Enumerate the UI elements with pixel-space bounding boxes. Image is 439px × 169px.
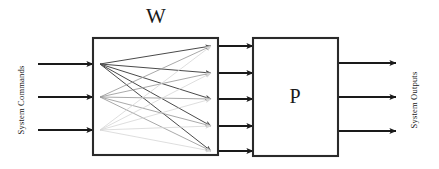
fan-link-2-3 [100, 126, 211, 130]
block-diagram-canvas: W P System Commands System Outputs [0, 0, 439, 169]
fan-link-0-3 [100, 64, 211, 126]
fan-link-0-0 [100, 46, 211, 64]
intermediate-arrows-group [218, 46, 253, 151]
input-arrows-group [38, 64, 93, 130]
fan-link-2-0 [100, 46, 211, 130]
diagram-svg: W P System Commands System Outputs [0, 0, 439, 169]
block-p-label: P [289, 85, 300, 107]
fan-link-1-2 [100, 97, 211, 99]
fan-link-2-4 [100, 130, 211, 151]
block-w [93, 38, 218, 155]
system-outputs-label: System Outputs [409, 72, 419, 129]
weight-fan-network [100, 46, 211, 151]
block-w-label: W [146, 4, 166, 28]
fan-link-1-4 [100, 97, 211, 151]
system-commands-label: System Commands [16, 66, 26, 135]
fan-link-2-2 [100, 99, 211, 130]
output-arrows-group [338, 63, 396, 131]
fan-link-0-4 [100, 64, 211, 151]
